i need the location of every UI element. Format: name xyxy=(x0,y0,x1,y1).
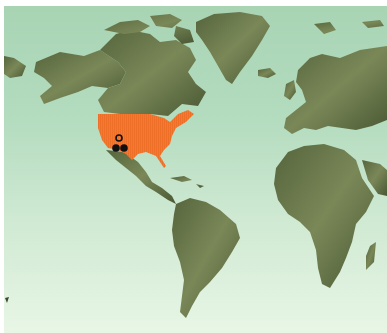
world-map xyxy=(0,0,387,333)
marker-filled-circle xyxy=(112,144,120,152)
landmass-madagascar xyxy=(366,242,376,270)
marker-filled-circle xyxy=(120,144,128,152)
landmass-siberia-edge xyxy=(4,56,26,78)
landmass-mexico-central-america xyxy=(106,150,176,204)
landmass-africa xyxy=(274,144,374,288)
landmass-iceland xyxy=(258,68,276,78)
landmass-islet xyxy=(5,297,9,303)
landmass-svalbard xyxy=(314,20,384,34)
landmass-uk xyxy=(284,80,296,100)
landmass-south-america xyxy=(172,198,240,318)
map-landmasses xyxy=(0,0,387,333)
landmass-europe xyxy=(284,46,387,134)
landmass-caribbean xyxy=(170,176,204,188)
highlighted-region-united-states xyxy=(98,110,194,168)
